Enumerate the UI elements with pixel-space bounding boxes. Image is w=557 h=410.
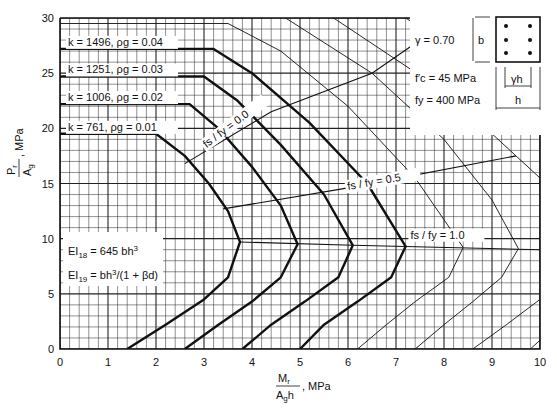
curve-label: k = 761, ρg = 0.01: [66, 121, 178, 134]
column-section: [496, 17, 540, 62]
rebar-dot: [528, 51, 532, 55]
interaction-diagram: k = 761, ρg = 0.01k = 1006, ρg = 0.02k =…: [0, 0, 557, 410]
x-tick-label: 10: [534, 356, 546, 368]
stress-ratio-lines: [185, 24, 540, 250]
label-text: k = 761, ρg = 0.01: [68, 121, 157, 133]
label-text: fs / fy = 1.0: [410, 229, 464, 241]
x-tick-label: 5: [297, 356, 303, 368]
label-text: fs / fy = 0.5: [346, 171, 401, 192]
curve-label: k = 1496, ρg = 0.04: [66, 36, 178, 49]
axis-labels: MrAgh, MPaPrAg, MPa: [5, 127, 332, 403]
y-tick-label: 20: [42, 122, 54, 134]
curve-line: [60, 104, 298, 349]
x-tick-label: 0: [57, 356, 63, 368]
rebar-dot: [528, 38, 532, 42]
chart-canvas: k = 761, ρg = 0.01k = 1006, ρg = 0.02k =…: [0, 0, 557, 410]
y-tick-label: 15: [42, 178, 54, 190]
b-label: b: [478, 34, 484, 46]
fc-label: f′c = 45 MPa: [415, 72, 477, 84]
ei-formula-box: EI18 = 645 bh3EI19 = bh3/(1 + βd): [63, 232, 163, 286]
rebar-dot: [504, 24, 508, 28]
x-tick-label: 3: [201, 356, 207, 368]
x-tick-label: 6: [345, 356, 351, 368]
curve-line: [473, 299, 540, 349]
rebar-dot: [528, 24, 532, 28]
curve-line: [530, 340, 540, 349]
x-axis-numerator: Mr: [278, 372, 290, 386]
fy-label: fy = 400 MPa: [415, 94, 481, 106]
y-tick-label: 30: [42, 12, 54, 24]
x-tick-label: 7: [393, 356, 399, 368]
stress-line: [185, 24, 444, 164]
y-axis-numerator: Pr: [5, 165, 19, 175]
rebar-dot: [504, 51, 508, 55]
x-axis-unit: , MPa: [302, 380, 332, 392]
gamma-h-label: γh: [511, 73, 523, 85]
y-axis-label: PrAg, MPa: [5, 127, 35, 177]
curve-label: k = 1251, ρg = 0.03: [66, 63, 178, 76]
x-axis-denominator: Agh: [276, 389, 294, 403]
label-text: k = 1496, ρg = 0.04: [68, 36, 163, 48]
y-axis-denominator: Ag: [21, 164, 35, 176]
y-axis-unit: , MPa: [13, 127, 25, 157]
gamma-label: γ = 0.70: [415, 34, 454, 46]
y-tick-label: 10: [42, 233, 54, 245]
stress-label-10: fs / fy = 1.0: [408, 229, 484, 242]
section-legend: γ = 0.70f′c = 45 MPafy = 400 MPabγhh: [415, 17, 540, 110]
x-tick-label: 9: [489, 356, 495, 368]
y-tick-label: 0: [48, 343, 54, 355]
y-tick-label: 5: [48, 288, 54, 300]
stress-clipped: [185, 24, 540, 250]
y-tick-label: 25: [42, 67, 54, 79]
x-tick-label: 8: [441, 356, 447, 368]
x-tick-label: 4: [249, 356, 255, 368]
label-text: k = 1006, ρg = 0.02: [68, 91, 163, 103]
x-tick-label: 1: [105, 356, 111, 368]
x-tick-label: 2: [153, 356, 159, 368]
rebar-dot: [504, 38, 508, 42]
h-label: h: [515, 94, 521, 106]
label-text: k = 1251, ρg = 0.03: [68, 63, 163, 75]
stress-line: [240, 242, 540, 250]
curve-label: k = 1006, ρg = 0.02: [66, 91, 178, 104]
